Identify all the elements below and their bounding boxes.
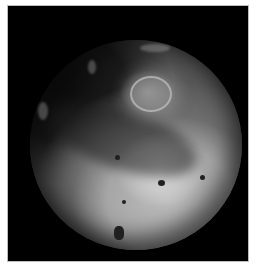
surface-feature (140, 44, 170, 52)
image-frame (7, 5, 249, 262)
dark-spot (122, 200, 126, 204)
surface-feature (38, 102, 48, 120)
moon-photo (30, 40, 242, 250)
volcanic-crater (130, 76, 172, 112)
dark-spot (200, 175, 205, 180)
dark-region (44, 88, 205, 191)
dark-spot (158, 180, 165, 186)
surface-feature (88, 60, 96, 74)
dark-spot (115, 155, 120, 160)
dark-spot (114, 226, 124, 240)
